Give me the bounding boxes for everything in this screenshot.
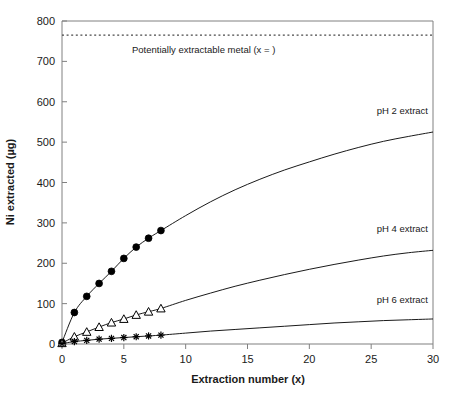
data-marker	[120, 255, 127, 262]
data-marker	[133, 333, 140, 340]
annotation-label-potentially-extractable-metal: Potentially extractable metal (x = )	[132, 44, 275, 55]
y-tick-label: 800	[37, 15, 55, 27]
series-label-1: pH 4 extract	[377, 223, 429, 234]
series-label-0: pH 2 extract	[377, 105, 429, 116]
data-marker	[71, 338, 78, 345]
data-marker	[145, 235, 152, 242]
y-tick-label: 100	[37, 298, 55, 310]
data-marker	[120, 334, 127, 341]
data-marker	[71, 309, 78, 316]
y-tick-label: 700	[37, 55, 55, 67]
data-marker	[83, 293, 90, 300]
x-tick-label: 5	[121, 353, 127, 365]
data-marker	[145, 332, 152, 339]
data-marker	[158, 227, 165, 234]
x-tick-label: 0	[59, 353, 65, 365]
data-marker	[83, 337, 90, 344]
y-tick-label: 300	[37, 217, 55, 229]
data-marker	[108, 268, 115, 275]
y-tick-label: 200	[37, 257, 55, 269]
y-tick-label: 600	[37, 96, 55, 108]
data-marker	[157, 332, 164, 339]
x-tick-label: 10	[180, 353, 192, 365]
y-tick-label: 0	[49, 338, 55, 350]
y-axis-title: Ni extracted (µg)	[4, 138, 16, 225]
y-tick-label: 500	[37, 136, 55, 148]
chart-figure: 0100200300400500600700800 051015202530 N…	[0, 0, 452, 404]
y-tick-label: 400	[37, 177, 55, 189]
data-marker	[58, 340, 65, 347]
x-axis-title: Extraction number (x)	[191, 373, 305, 385]
data-marker	[96, 336, 103, 343]
x-tick-label: 15	[241, 353, 253, 365]
annotation-labels: Potentially extractable metal (x = )	[132, 44, 275, 55]
y-axis-tick-labels: 0100200300400500600700800	[37, 15, 55, 350]
data-marker	[108, 335, 115, 342]
data-marker	[133, 244, 140, 251]
data-marker	[96, 280, 103, 287]
x-tick-label: 30	[427, 353, 439, 365]
series-label-2: pH 6 extract	[377, 294, 429, 305]
x-tick-label: 25	[365, 353, 377, 365]
x-tick-label: 20	[303, 353, 315, 365]
